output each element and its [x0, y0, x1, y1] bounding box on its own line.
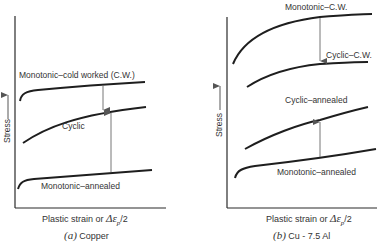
xlabel-b-symbol: Δε: [330, 212, 341, 224]
xlabel-a-text: Plastic strain or: [42, 214, 106, 224]
curve-a-monotonic-cold-worked: [20, 82, 145, 101]
xlabel-b-text: Plastic strain or: [266, 214, 330, 224]
curve-b-cyclic-cw: [247, 62, 368, 87]
label-b-cyclic-cw: Cyclic–C.W.: [326, 50, 372, 60]
ylabel-a: Stress: [2, 119, 12, 143]
xlabel-a-suffix: /2: [120, 214, 128, 224]
label-b-monotonic-annealed: Monotonic–annealed: [277, 167, 356, 177]
label-a-monotonic-cold-worked: Monotonic–cold worked (C.W.): [19, 70, 135, 80]
label-b-monotonic-cw: Monotonic–C.W.: [285, 2, 347, 12]
xlabel-b: Plastic strain or Δεp/2: [266, 212, 352, 227]
caption-b-text: Cu - 7.5 Al: [288, 231, 330, 241]
ylabel-b: Stress: [214, 113, 224, 137]
caption-a-letter: (a): [64, 229, 77, 241]
xlabel-b-suffix: /2: [344, 214, 352, 224]
label-b-cyclic-annealed: Cyclic–annealed: [285, 95, 347, 105]
caption-b: (b) Cu - 7.5 Al: [273, 229, 330, 241]
caption-a: (a) Copper: [64, 229, 109, 241]
caption-a-text: Copper: [79, 231, 109, 241]
curve-b-cyclic-annealed: [245, 107, 368, 149]
panel-b-axes: [227, 17, 377, 208]
xlabel-a-symbol: Δε: [106, 212, 117, 224]
label-a-monotonic-annealed: Monotonic–annealed: [41, 181, 120, 191]
caption-b-letter: (b): [273, 229, 286, 241]
label-a-cyclic: Cyclic: [62, 121, 85, 131]
xlabel-a: Plastic strain or Δεp/2: [42, 212, 128, 227]
